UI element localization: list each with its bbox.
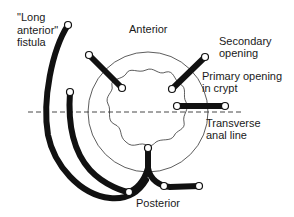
label-anterior: Anterior [129,24,168,35]
posterior-secondary-opening-right [196,183,203,190]
posterior-branch-left [128,168,148,192]
lateral-secondary-opening [222,103,229,110]
curved-posterior-tract [70,92,130,192]
anterior-left-primary-opening [119,85,126,92]
label-long-anterior-1: "Long [17,12,45,23]
posterior-secondary-opening-mid [161,183,168,190]
label-secondary-opening-2: opening [219,48,258,59]
curved-tract-secondary-opening [67,89,74,96]
posterior-primary-opening [145,145,152,152]
label-long-anterior-3: fistula [17,37,46,48]
long-anterior-secondary-opening [65,22,72,29]
lateral-primary-opening [174,103,181,110]
label-transverse-2: anal line [206,130,247,141]
label-posterior: Posterior [136,198,180,209]
label-secondary-opening-1: Secondary [219,36,272,47]
anterior-right-radial-tract [172,57,205,89]
anterior-left-secondary-opening [86,52,93,59]
label-primary-opening-2: in crypt [202,83,237,94]
label-long-anterior-2: anterior" [17,25,58,36]
anterior-left-radial-tract [89,55,122,88]
anterior-right-primary-opening [169,86,176,93]
posterior-secondary-opening-left [126,189,133,196]
anterior-right-secondary-opening [202,54,209,61]
label-transverse-1: Transverse [206,118,261,129]
label-primary-opening-1: Primary opening [202,71,282,82]
